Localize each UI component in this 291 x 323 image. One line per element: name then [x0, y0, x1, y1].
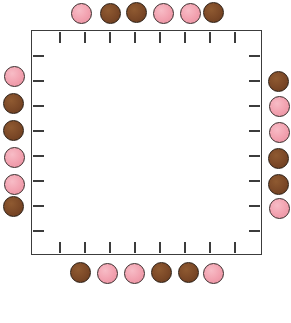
token-top-5-brown[interactable]	[203, 2, 224, 23]
tick-top-2	[109, 32, 111, 43]
tick-top-7	[234, 32, 236, 43]
tick-top-4	[159, 32, 161, 43]
token-right-0-brown[interactable]	[268, 71, 289, 92]
tick-right-3	[249, 130, 260, 132]
token-top-0-pink[interactable]	[71, 3, 92, 24]
tick-bottom-5	[184, 242, 186, 253]
tick-top-5	[184, 32, 186, 43]
tick-bottom-0	[59, 242, 61, 253]
tick-bottom-6	[209, 242, 211, 253]
token-bottom-1-pink[interactable]	[97, 263, 118, 284]
tick-bottom-3	[134, 242, 136, 253]
token-bottom-5-pink[interactable]	[203, 263, 224, 284]
token-left-5-brown[interactable]	[3, 196, 24, 217]
token-left-3-pink[interactable]	[4, 147, 25, 168]
token-border-board	[0, 0, 291, 323]
tick-left-1	[33, 80, 44, 82]
tick-right-0	[249, 55, 260, 57]
tick-right-7	[249, 230, 260, 232]
tick-top-1	[84, 32, 86, 43]
tick-top-3	[134, 32, 136, 43]
token-right-1-pink[interactable]	[269, 96, 290, 117]
tick-top-0	[59, 32, 61, 43]
tick-left-4	[33, 155, 44, 157]
tick-right-4	[249, 155, 260, 157]
token-left-2-brown[interactable]	[3, 120, 24, 141]
token-bottom-2-pink[interactable]	[124, 263, 145, 284]
tick-left-3	[33, 130, 44, 132]
token-top-4-pink[interactable]	[180, 3, 201, 24]
token-top-1-brown[interactable]	[100, 3, 121, 24]
tick-right-1	[249, 80, 260, 82]
tick-bottom-4	[159, 242, 161, 253]
tick-right-2	[249, 105, 260, 107]
tick-bottom-7	[234, 242, 236, 253]
token-bottom-4-brown[interactable]	[178, 262, 199, 283]
token-top-2-brown[interactable]	[126, 2, 147, 23]
token-left-0-pink[interactable]	[4, 66, 25, 87]
token-right-3-brown[interactable]	[268, 148, 289, 169]
token-left-1-brown[interactable]	[3, 93, 24, 114]
tick-left-5	[33, 180, 44, 182]
token-bottom-0-brown[interactable]	[70, 262, 91, 283]
center-square-frame	[31, 30, 262, 255]
tick-bottom-2	[109, 242, 111, 253]
token-left-4-pink[interactable]	[4, 174, 25, 195]
token-bottom-3-brown[interactable]	[151, 262, 172, 283]
tick-right-5	[249, 180, 260, 182]
tick-left-2	[33, 105, 44, 107]
token-right-4-brown[interactable]	[268, 174, 289, 195]
tick-top-6	[209, 32, 211, 43]
tick-bottom-1	[84, 242, 86, 253]
token-right-5-pink[interactable]	[269, 198, 290, 219]
tick-left-7	[33, 230, 44, 232]
tick-left-0	[33, 55, 44, 57]
tick-right-6	[249, 205, 260, 207]
token-right-2-pink[interactable]	[269, 122, 290, 143]
tick-left-6	[33, 205, 44, 207]
token-top-3-pink[interactable]	[153, 3, 174, 24]
